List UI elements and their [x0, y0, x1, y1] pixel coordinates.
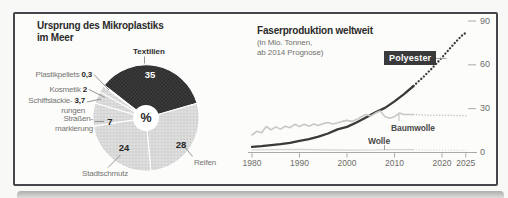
polyester-series-label: Polyester [384, 51, 436, 65]
pie-label-plastikpellets: Plastikpellets 0,3 [36, 70, 92, 80]
x-tick-label-2025: 2025 [453, 158, 479, 168]
series-forecast-line-Baumwolle [414, 115, 466, 116]
pie-label-textilien: Textilien [129, 47, 169, 56]
schiffslackierungen-value: 3,7 [74, 96, 85, 105]
pie-value-strassenmarkierung: 7 [100, 116, 120, 127]
pie-label-reifen: Reifen [194, 158, 216, 168]
y-tick-label-60: 60 [480, 59, 498, 69]
pie-label-stadtschmutz: Stadtschmutz [82, 169, 128, 179]
x-tick-label-1990: 1990 [287, 158, 313, 168]
x-tick-label-2020: 2020 [429, 158, 455, 168]
series-line-Wolle [252, 149, 414, 150]
pie-value-textilien: 35 [140, 69, 160, 80]
pie-title-line1: Ursprung des Mikroplastiks [37, 20, 164, 31]
strassenmarkierung-text2: markierung [55, 124, 93, 133]
pie-center-percent-symbol: % [137, 111, 155, 125]
line-chart-title: Faserproduktion weltweit [257, 25, 373, 36]
y-tick-label-30: 30 [480, 103, 498, 113]
pie-label-strassenmarkierung: Straßen- markierung [55, 114, 93, 133]
x-tick-label-1980: 1980 [239, 158, 265, 168]
page-edge-decoration [17, 191, 504, 198]
plastikpellets-value: 0,3 [81, 70, 92, 79]
x-tick-label-2000: 2000 [334, 158, 360, 168]
y-tick-label-0: 0 [480, 147, 498, 157]
pie-title-line2: im Meer [37, 32, 73, 43]
line-chart-subtitle-1: (in Mio. Tonnen, [257, 38, 312, 47]
plastikpellets-text: Plastikpellets [36, 70, 80, 79]
strassenmarkierung-text1: Straßen- [63, 114, 93, 123]
microplastics-infographic: Ursprung des Mikroplastiks im Meer Texti… [0, 0, 508, 198]
y-tick-label-90: 90 [480, 16, 498, 26]
kosmetik-value: 2 [83, 85, 87, 94]
baumwolle-series-label: Baumwolle [391, 123, 435, 133]
pie-label-schiffslackierungen: Schiffslackie- 3,7 rungen [28, 96, 85, 115]
pie-value-stadtschmutz: 24 [114, 142, 134, 153]
schiffslackierungen-text1: Schiffslackie- [28, 96, 72, 105]
series-forecast-line-Wolle [414, 150, 466, 151]
pie-value-reifen: 28 [171, 139, 191, 150]
line-chart-subtitle-2: ab 2014 Prognose) [257, 48, 323, 57]
kosmetik-text: Kosmetik [49, 85, 80, 94]
wolle-series-label: Wolle [368, 136, 390, 146]
x-tick-label-2010: 2010 [382, 158, 408, 168]
pie-label-kosmetik: Kosmetik 2 [49, 85, 87, 95]
pie-chart-title: Ursprung des Mikroplastiks im Meer [37, 20, 164, 43]
